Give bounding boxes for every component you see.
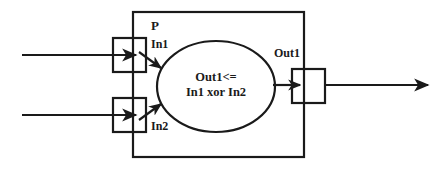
input-port-label-in1: In1	[151, 38, 168, 50]
expression-line-2: In1 xor In2	[164, 85, 268, 100]
connector-in2-to-body	[139, 104, 161, 120]
input-port-label-in2: In2	[151, 120, 168, 132]
process-label: P	[151, 19, 159, 32]
process-body-expression: Out1<= In1 xor In2	[164, 70, 268, 100]
output-port-label-out1: Out1	[274, 47, 300, 59]
expression-line-1: Out1<=	[164, 70, 268, 85]
diagram-canvas: P In1 In2 Out1 Out1<= In1 xor In2	[0, 0, 437, 171]
connector-in1-to-body	[139, 52, 161, 68]
